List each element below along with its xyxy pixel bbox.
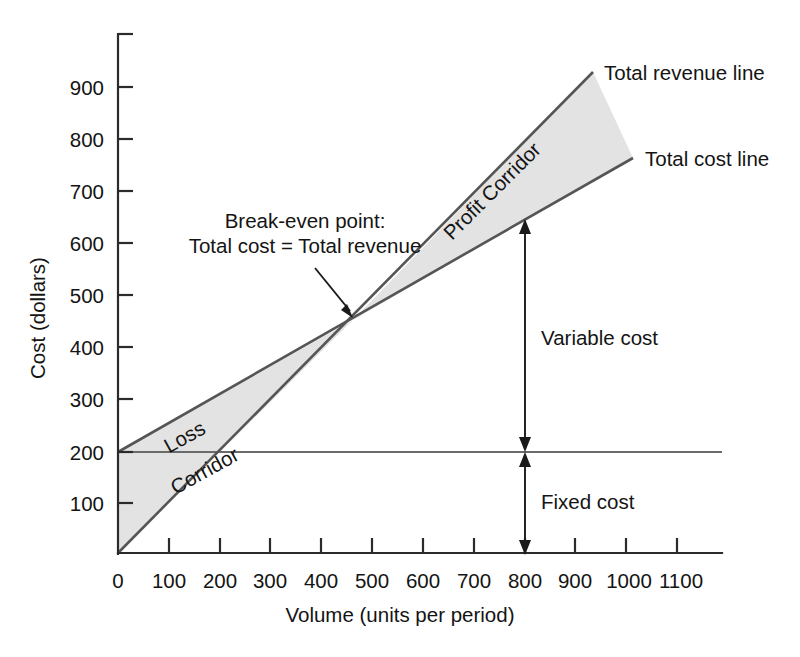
y-tick-label-200: 200	[70, 441, 104, 464]
x-tick-label-300: 300	[253, 569, 287, 592]
y-tick-label-700: 700	[70, 180, 104, 203]
breakeven-annotation: Break-even point: Total cost = Total rev…	[189, 209, 422, 318]
y-tick-label-400: 400	[70, 336, 104, 359]
y-tick-label-900: 900	[70, 76, 104, 99]
fixed-cost-arrowhead-up	[519, 452, 531, 467]
y-tick-labels: 900 800 700 600 500 400 300 200 100	[70, 76, 104, 515]
x-tick-label-800: 800	[508, 569, 542, 592]
x-tick-label-900: 900	[558, 569, 592, 592]
variable-cost-label: Variable cost	[541, 326, 658, 349]
x-axis	[118, 538, 722, 553]
x-tick-label-500: 500	[355, 569, 389, 592]
breakeven-label-line2: Total cost = Total revenue	[189, 234, 422, 257]
total-cost-line	[118, 158, 633, 452]
total-revenue-line-label: Total revenue line	[604, 61, 765, 84]
x-tick-label-400: 400	[304, 569, 338, 592]
y-tick-label-800: 800	[70, 128, 104, 151]
breakeven-label-line1: Break-even point:	[225, 209, 386, 232]
breakeven-leader-line	[315, 268, 350, 311]
variable-cost-arrowhead-down	[519, 437, 531, 452]
y-tick-label-600: 600	[70, 232, 104, 255]
x-tick-label-200: 200	[203, 569, 237, 592]
x-tick-label-0: 0	[112, 569, 123, 592]
x-tick-label-100: 100	[152, 569, 186, 592]
breakeven-arrowhead	[341, 304, 353, 318]
fixed-cost-label: Fixed cost	[541, 490, 635, 513]
x-tick-label-1000: 1000	[606, 569, 652, 592]
x-tick-label-1100: 1100	[659, 569, 703, 592]
variable-cost-dimension: Variable cost	[519, 219, 658, 452]
y-tick-label-300: 300	[70, 388, 104, 411]
x-axis-title: Volume (units per period)	[285, 603, 514, 626]
y-tick-label-100: 100	[70, 492, 104, 515]
x-tick-label-600: 600	[406, 569, 440, 592]
y-tick-label-500: 500	[70, 284, 104, 307]
x-tick-label-700: 700	[457, 569, 491, 592]
total-cost-line-label: Total cost line	[645, 147, 769, 170]
breakeven-chart: 900 800 700 600 500 400 300 200 100 0 10…	[0, 0, 800, 657]
x-tick-labels: 0 100 200 300 400 500 600 700 800 900 10…	[112, 569, 703, 592]
chart-canvas: 900 800 700 600 500 400 300 200 100 0 10…	[0, 0, 800, 657]
fixed-cost-dimension: Fixed cost	[519, 452, 635, 555]
y-axis-title: Cost (dollars)	[26, 257, 49, 379]
